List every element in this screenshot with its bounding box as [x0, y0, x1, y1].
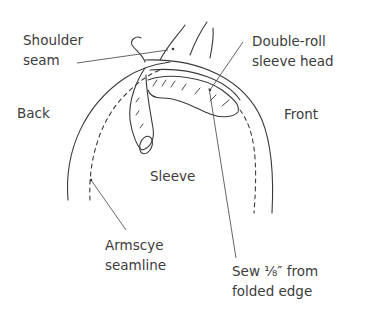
label-armscye-seamline: Armscye seamline — [105, 235, 166, 275]
label-line: sleeve head — [252, 51, 334, 71]
pin-dot — [172, 48, 175, 51]
label-line: Double-roll — [252, 31, 334, 51]
label-front: Front — [284, 104, 318, 124]
roll-hatching — [136, 80, 229, 128]
label-sew-note: Sew ⅛″ from folded edge — [232, 261, 318, 301]
label-line: folded edge — [232, 281, 318, 301]
leader-armscye — [91, 180, 126, 230]
label-double-roll-sleeve-head: Double-roll sleeve head — [252, 31, 334, 71]
leader-double-roll — [210, 42, 243, 90]
sleeve-cap-edge — [150, 69, 240, 100]
double-roll-band — [148, 76, 238, 116]
label-line: seam — [23, 50, 83, 70]
neck-line-3 — [210, 28, 213, 58]
label-back: Back — [17, 103, 50, 123]
label-line: seamline — [105, 255, 166, 275]
neck-line-1 — [160, 25, 185, 60]
label-line: Shoulder — [23, 30, 83, 50]
thread-loop — [132, 37, 145, 62]
neck-line-2 — [190, 22, 207, 55]
label-line: Armscye — [105, 235, 166, 255]
label-shoulder-seam: Shoulder seam — [23, 30, 83, 70]
leader-sew-note — [209, 88, 236, 258]
label-sleeve: Sleeve — [150, 166, 195, 186]
armscye-seamline-front — [240, 110, 256, 213]
strip-end — [137, 134, 154, 155]
leader-dot-armscye — [90, 179, 93, 182]
label-line: Sew ⅛″ from — [232, 261, 318, 281]
leader-shoulder-seam — [77, 50, 168, 63]
sleeve-head-diagram: Shoulder seam Double-roll sleeve head Ba… — [0, 0, 370, 319]
